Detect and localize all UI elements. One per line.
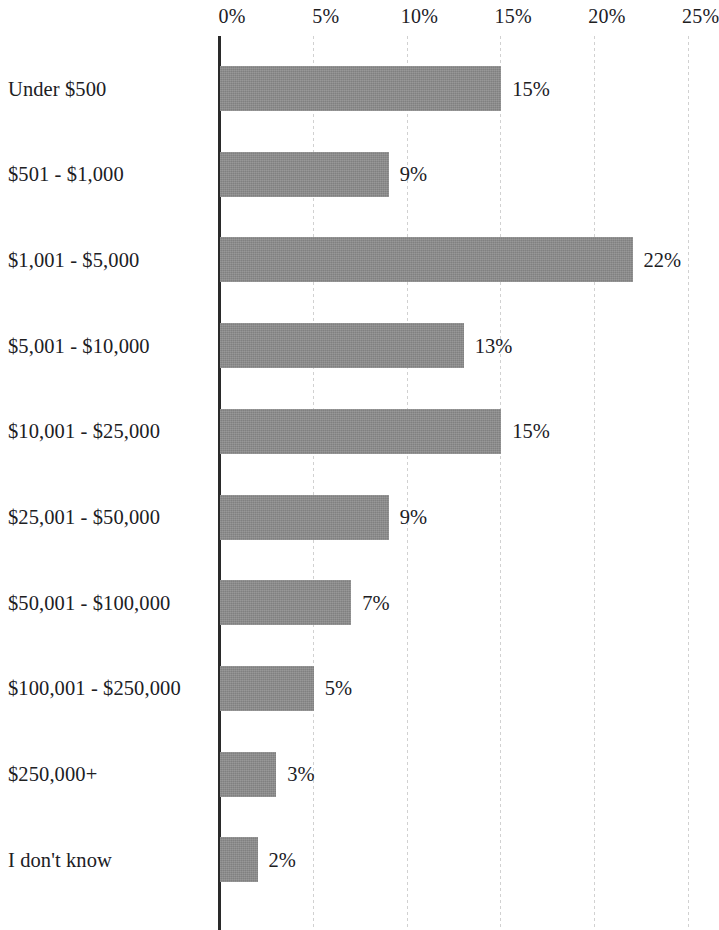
bar-value-label: 7%	[362, 591, 389, 615]
x-tick-label: 20%	[588, 4, 625, 28]
bar	[220, 495, 389, 540]
bar-value-label: 13%	[475, 334, 513, 358]
category-label: $5,001 - $10,000	[8, 334, 150, 358]
gridline-15	[500, 36, 501, 930]
bar-value-label: 22%	[644, 248, 682, 272]
category-label: Under $500	[8, 77, 106, 101]
bar-value-label: 9%	[400, 505, 427, 529]
gridline-20	[594, 36, 595, 930]
category-label: $25,001 - $50,000	[8, 505, 160, 529]
category-label: $501 - $1,000	[8, 162, 124, 186]
x-tick-label: 15%	[495, 4, 532, 28]
x-tick-label: 0%	[218, 4, 245, 28]
bar	[220, 580, 351, 625]
bar	[220, 237, 633, 282]
gridline-25	[688, 36, 689, 930]
bar-value-label: 2%	[269, 848, 296, 872]
bar	[220, 752, 276, 797]
x-tick-label: 5%	[312, 4, 339, 28]
bar	[220, 66, 501, 111]
category-label: $10,001 - $25,000	[8, 419, 160, 443]
bar-value-label: 5%	[325, 676, 352, 700]
category-label: $50,001 - $100,000	[8, 591, 170, 615]
category-label: I don't know	[8, 848, 112, 872]
bar	[220, 666, 314, 711]
bar-value-label: 15%	[512, 419, 550, 443]
category-label: $1,001 - $5,000	[8, 248, 139, 272]
bar-value-label: 9%	[400, 162, 427, 186]
x-tick-label: 10%	[401, 4, 438, 28]
bar	[220, 152, 389, 197]
category-label: $250,000+	[8, 762, 97, 786]
category-label: $100,001 - $250,000	[8, 676, 181, 700]
x-tick-label: 25%	[682, 4, 719, 28]
bar-value-label: 15%	[512, 77, 550, 101]
bar	[220, 837, 258, 882]
bar	[220, 409, 501, 454]
bar	[220, 323, 464, 368]
bar-value-label: 3%	[287, 762, 314, 786]
